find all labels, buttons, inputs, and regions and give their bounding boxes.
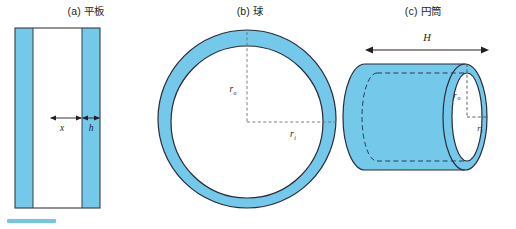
panel-b-drawing: ro ri <box>160 0 340 229</box>
panel-cylinder: (c) 円筒 H <box>330 0 516 229</box>
dimension-arrow-H <box>365 47 489 54</box>
plate-left-band <box>15 28 33 208</box>
panel-a-drawing: x h <box>0 0 172 229</box>
figure-heat-conduction-geometries: (a) 平板 x h <box>0 0 516 229</box>
panel-sphere: (b) 球 ro ri <box>160 0 340 229</box>
cylinder-label-H: H <box>422 32 432 43</box>
panel-c-drawing: H ro ri <box>330 0 516 229</box>
plate-label-x: x <box>59 123 65 133</box>
dimension-arrow-x <box>50 115 82 120</box>
footer-color-swatch <box>7 219 56 223</box>
panel-flat-plate: (a) 平板 x h <box>0 0 172 229</box>
plate-label-h: h <box>89 123 94 133</box>
